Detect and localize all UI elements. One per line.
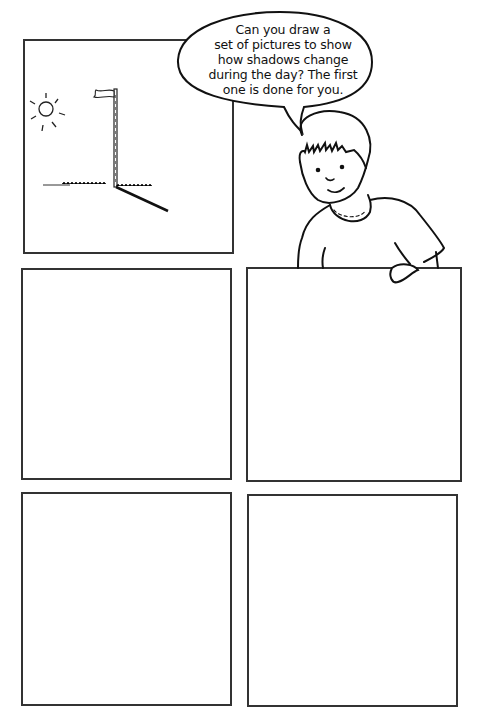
bubble-line: during the day? The first bbox=[188, 67, 378, 82]
illustration-layer bbox=[0, 0, 481, 727]
bubble-line: set of pictures to show bbox=[188, 37, 378, 52]
shadow-line bbox=[116, 187, 168, 211]
speech-bubble-text: Can you draw a set of pictures to show h… bbox=[188, 22, 378, 97]
flagpole-icon bbox=[114, 89, 117, 187]
bubble-line: one is done for you. bbox=[188, 82, 378, 97]
sun-icon bbox=[30, 93, 65, 131]
grass-line bbox=[43, 182, 152, 186]
bubble-line: Can you draw a bbox=[188, 22, 378, 37]
flag-icon bbox=[94, 90, 114, 98]
bubble-line: how shadows change bbox=[188, 52, 378, 67]
boy-illustration bbox=[298, 111, 444, 282]
